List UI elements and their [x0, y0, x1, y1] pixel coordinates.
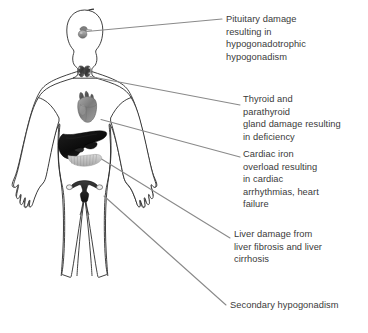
callout-cardiac-iron-overload: Cardiac iron overload resulting in cardi…	[243, 148, 368, 211]
callout-secondary-hypogonadism: Secondary hypogonadism	[230, 299, 368, 312]
pituitary-highlight	[80, 32, 83, 34]
leader-line-pituitary	[87, 19, 223, 32]
thyroid-isthmus	[83, 69, 86, 74]
arm-right-path	[111, 98, 156, 207]
ovary-left	[66, 185, 72, 190]
pituitary-body-shape	[78, 30, 87, 38]
leader-line-secondary	[104, 196, 226, 305]
leader-line-liver	[95, 155, 230, 238]
pituitary-pointer-stub	[86, 30, 92, 31]
parathyroid-nodule-2	[79, 72, 81, 74]
callout-pituitary-damage: Pituitary damage resulting in hypogonado…	[226, 13, 366, 63]
anatomical-diagram: Pituitary damage resulting in hypogonado…	[0, 0, 368, 333]
parathyroid-nodule-3	[89, 67, 91, 69]
parathyroid-nodule-1	[79, 67, 81, 69]
parathyroid-nodule-4	[89, 72, 91, 74]
ovary-right	[97, 185, 103, 190]
callout-thyroid-parathyroid: Thyroid and parathyroid gland damage res…	[243, 93, 368, 143]
arm-left-path	[14, 98, 59, 207]
heart-highlight	[80, 105, 86, 115]
callout-liver-damage: Liver damage from liver fibrosis and liv…	[234, 228, 368, 266]
